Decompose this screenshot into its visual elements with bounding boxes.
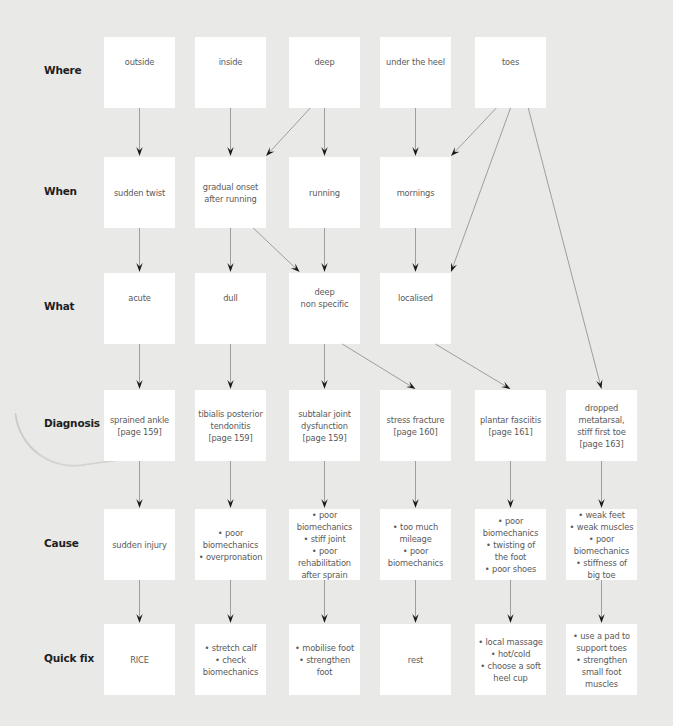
arrowhead-icon [507,614,513,623]
arrowhead-icon [227,263,233,272]
node-label: under the heel [386,56,445,68]
where-node: inside [195,37,266,108]
arrowhead-icon [412,147,418,156]
arrowhead-icon [227,499,233,508]
node-label: dropped metatarsal, stiff first toe [pag… [577,402,625,450]
node-label: rest [408,654,423,666]
arrowhead-icon [507,499,513,508]
arrowhead-icon [412,263,418,272]
node-label: running [309,187,340,199]
node-label: • local massage • hot/cold • choose a so… [478,636,543,684]
quickfix-node: • local massage • hot/cold • choose a so… [475,624,546,695]
edge-line [435,344,505,386]
arrowhead-icon [412,614,418,623]
arrowhead-icon [412,499,418,508]
arrowhead-icon [266,147,274,156]
arrowhead-icon [596,379,602,389]
arrowhead-icon [321,263,327,272]
edges-layer [0,0,673,726]
row-label-diagnosis: Diagnosis [44,417,104,429]
node-label: sudden twist [114,187,165,199]
node-label: subtalar joint dysfunction [page 159] [298,408,351,444]
node-label: • poor biomechanics • twisting of the fo… [483,515,538,575]
diagnosis-node: tibialis posterior tendonitis [page 159] [195,390,266,461]
when-node: mornings [380,157,451,228]
arrowhead-icon [406,382,415,389]
arrowhead-icon [136,147,142,156]
row-label-where: Where [44,64,104,76]
node-label: outside [125,56,155,68]
what-node: localised [380,273,451,344]
cause-node: • poor biomechanics • stiff joint • poor… [289,509,360,580]
quickfix-node: • use a pad to support toes • strengthen… [566,624,637,695]
arrowhead-icon [501,382,510,389]
node-label: • poor biomechanics • overpronation [199,527,263,563]
where-node: outside [104,37,175,108]
arrowhead-icon [321,147,327,156]
node-label: • use a pad to support toes • strengthen… [573,630,630,690]
node-label: acute [128,292,151,304]
row-label-when: When [44,185,104,197]
node-label: mornings [397,187,435,199]
node-label: stress fracture [page 160] [387,414,445,438]
cause-node: • weak feet • weak muscles • poor biomec… [566,509,637,580]
diagnosis-node: dropped metatarsal, stiff first toe [pag… [566,390,637,461]
row-label-what: What [44,300,104,312]
when-node: sudden twist [104,157,175,228]
quickfix-node: rest [380,624,451,695]
arrowhead-icon [598,614,604,623]
node-label: tibialis posterior tendonitis [page 159] [198,408,262,444]
edge-line [253,228,296,268]
arrowhead-icon [598,499,604,508]
row-label-quick-fix: Quick fix [44,652,104,664]
arrowhead-icon [321,380,327,389]
node-label: • too much mileage • poor biomechanics [388,521,443,569]
diagnosis-node: subtalar joint dysfunction [page 159] [289,390,360,461]
what-node: deep non specific [289,273,360,344]
diagnosis-node: stress fracture [page 160] [380,390,451,461]
edge-line [342,344,411,386]
node-label: • poor biomechanics • stiff joint • poor… [297,509,352,581]
node-label: • mobilise foot • strengthen foot [295,642,354,678]
arrowhead-icon [136,614,142,623]
node-label: sudden injury [112,539,167,551]
edge-line [528,108,600,384]
when-node: gradual onset after running [195,157,266,228]
node-label: dull [223,292,238,304]
arrowhead-icon [136,263,142,272]
node-label: plantar fasciitis [page 161] [480,414,541,438]
arrowhead-icon [227,380,233,389]
arrowhead-icon [136,380,142,389]
arrowhead-icon [136,499,142,508]
arrowhead-icon [451,147,460,156]
node-label: • weak feet • weak muscles • poor biomec… [570,509,634,581]
cause-node: sudden injury [104,509,175,580]
quickfix-node: • stretch calf • check biomechanics [195,624,266,695]
when-node: running [289,157,360,228]
node-label: RICE [130,654,149,666]
what-node: acute [104,273,175,344]
cause-node: • poor biomechanics • overpronation [195,509,266,580]
arrowhead-icon [227,147,233,156]
foot-pain-flowchart: Where When What Diagnosis Cause Quick fi… [0,0,673,726]
what-node: dull [195,273,266,344]
arrowhead-icon [321,499,327,508]
arrowhead-icon [321,614,327,623]
edge-line [453,108,511,267]
node-label: sprained ankle [page 159] [110,414,169,438]
node-label: toes [502,56,519,68]
node-label: inside [219,56,243,68]
node-label: gradual onset after running [203,181,258,205]
node-label: deep non specific [301,286,349,310]
cause-node: • too much mileage • poor biomechanics [380,509,451,580]
edge-line [455,108,497,152]
arrowhead-icon [451,262,457,272]
diagnosis-node: sprained ankle [page 159] [104,390,175,461]
node-label: localised [398,292,433,304]
where-node: toes [475,37,546,108]
cause-node: • poor biomechanics • twisting of the fo… [475,509,546,580]
where-node: under the heel [380,37,451,108]
node-label: • stretch calf • check biomechanics [203,642,258,678]
quickfix-node: RICE [104,624,175,695]
node-label: deep [314,56,334,68]
